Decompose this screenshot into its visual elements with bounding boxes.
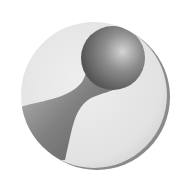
sphere [81, 26, 145, 90]
disc-sphere-logo-icon [0, 0, 181, 187]
